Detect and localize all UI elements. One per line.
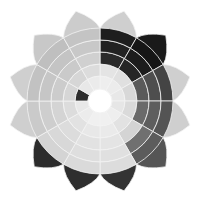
center-hub [88, 89, 112, 113]
color-star-diagram [0, 0, 200, 203]
